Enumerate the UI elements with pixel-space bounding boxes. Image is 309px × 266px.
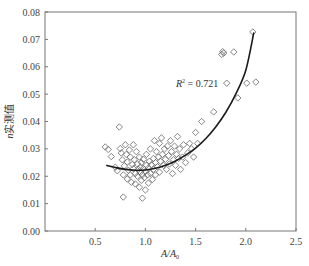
y-tick-label: 0.01	[23, 198, 41, 209]
data-point	[130, 142, 136, 148]
r-squared-symbol: R	[175, 78, 182, 89]
data-point	[177, 166, 183, 172]
scatter-chart: 0.000.010.020.030.040.050.060.070.08 0.5…	[0, 0, 309, 266]
y-tick-label: 0.05	[23, 89, 41, 100]
data-point	[231, 49, 237, 55]
x-axis-label: A/A0	[160, 248, 179, 260]
data-point	[147, 146, 153, 152]
data-point	[174, 133, 180, 139]
data-point	[133, 148, 139, 154]
data-points	[102, 29, 259, 202]
plot-frame	[45, 12, 296, 231]
y-tick-label: 0.00	[23, 226, 41, 237]
data-point	[182, 159, 188, 165]
x-tick-label: 0.5	[89, 236, 102, 247]
data-point	[120, 194, 126, 200]
data-point	[142, 187, 148, 193]
data-point	[167, 137, 173, 143]
data-point	[253, 79, 259, 85]
y-axis: 0.000.010.020.030.040.050.060.070.08	[23, 7, 49, 237]
data-point	[116, 124, 122, 130]
data-point	[169, 170, 175, 176]
y-tick-label: 0.08	[23, 7, 41, 18]
y-axis-label: n实测值	[3, 104, 15, 139]
x-tick-label: 1.5	[189, 236, 202, 247]
x-axis-label-subscript: 0	[176, 254, 179, 260]
data-point	[210, 109, 216, 115]
y-tick-label: 0.07	[23, 34, 41, 45]
y-tick-label: 0.06	[23, 61, 41, 72]
x-axis-label-text: A/A	[160, 248, 177, 259]
r-squared-value: = 0.721	[185, 78, 218, 89]
y-tick-label: 0.03	[23, 143, 41, 154]
data-point	[108, 153, 114, 159]
y-tick-label: 0.02	[23, 171, 41, 182]
x-tick-label: 1.0	[139, 236, 152, 247]
data-point	[190, 154, 196, 160]
y-tick-label: 0.04	[23, 116, 41, 127]
data-point	[122, 142, 128, 148]
r-squared-annotation: R2 = 0.721	[175, 78, 218, 89]
data-point	[139, 195, 145, 201]
x-tick-label: 2.5	[290, 236, 303, 247]
x-tick-label: 2.0	[240, 236, 253, 247]
data-point	[192, 129, 198, 135]
data-point	[224, 80, 230, 86]
data-point	[244, 80, 250, 86]
data-point	[198, 118, 204, 124]
y-axis-label-text: 实测值	[3, 104, 15, 134]
